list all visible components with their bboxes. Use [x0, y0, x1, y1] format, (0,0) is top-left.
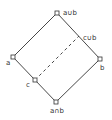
label-c: c [26, 81, 30, 89]
edge-c-cub-dashed [35, 36, 79, 80]
label-cub: c∪b [83, 34, 97, 42]
edge-b-bottom [56, 59, 100, 102]
lattice-diagram: a∪b a b c c∪b a∩b [0, 0, 112, 120]
label-top: a∪b [63, 9, 77, 17]
label-b: b [100, 64, 105, 72]
node-bottom [54, 100, 58, 104]
edge-top-a [13, 13, 57, 57]
label-bottom: a∩b [50, 107, 64, 115]
node-c [33, 78, 37, 82]
node-b [98, 57, 102, 61]
node-a [11, 55, 15, 59]
node-top [55, 11, 59, 15]
label-a: a [6, 59, 10, 67]
